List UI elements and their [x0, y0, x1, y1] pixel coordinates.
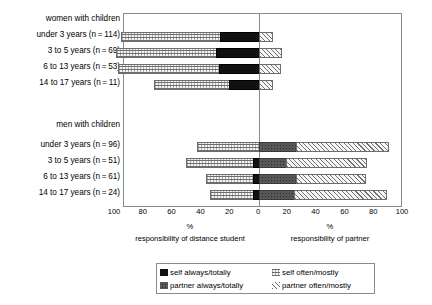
- bar-segment-self-often-mostly: [210, 190, 253, 200]
- x-axis-caption-right: responsibility of partner: [250, 234, 410, 244]
- x-axis-tick-labels: 10080604020020406080100: [123, 207, 402, 219]
- row-label-column: women with children under 3 years (n = 1…: [0, 0, 120, 210]
- x-axis-tick-8: 60: [340, 207, 348, 216]
- x-axis-tick-9: 80: [369, 207, 377, 216]
- row-label-women-3-5: 3 to 5 years (n = 69): [2, 46, 120, 55]
- legend-item-partner-often-mostly: partner often/mostly: [272, 281, 351, 290]
- legend-row-often: partner always/totally partner often/mos…: [160, 279, 371, 292]
- legend-label-self-often-mostly: self often/mostly: [282, 268, 338, 277]
- bar-segment-partner-always-totally: [259, 142, 296, 152]
- legend-label-self-always-totally: self always/totally: [170, 268, 231, 277]
- bar-segment-partner-often-mostly: [296, 174, 365, 184]
- bar-segment-partner-often-mostly: [296, 142, 388, 152]
- bar-segment-partner-often-mostly: [259, 32, 273, 42]
- bar-segment-self-often-mostly: [154, 80, 229, 90]
- x-axis-tick-7: 40: [311, 207, 319, 216]
- x-axis-tick-3: 40: [196, 207, 204, 216]
- legend-swatch-self-often-icon: [272, 269, 280, 276]
- row-label-men-3-5: 3 to 5 years (n = 51): [2, 156, 120, 165]
- bar-segment-self-often-mostly: [206, 174, 254, 184]
- bar-men-0: [197, 142, 389, 152]
- bar-segment-partner-always-totally: [259, 190, 294, 200]
- bar-men-3: [210, 190, 387, 200]
- bar-women-3: [154, 80, 274, 90]
- bar-segment-partner-often-mostly: [286, 158, 367, 168]
- row-label-men-under-3: under 3 years (n = 96): [2, 140, 120, 149]
- bar-segment-self-always-totally: [220, 32, 259, 42]
- x-axis-percent-left: %: [187, 222, 194, 231]
- group-header-men: men with children: [2, 120, 120, 129]
- legend-label-partner-always-totally: partner always/totally: [170, 281, 243, 290]
- bar-women-0: [121, 32, 274, 42]
- bar-men-2: [206, 174, 366, 184]
- row-label-men-6-13: 6 to 13 years (n = 61): [2, 172, 120, 181]
- x-axis-tick-5: 0: [256, 207, 260, 216]
- bar-segment-partner-often-mostly: [259, 80, 273, 90]
- bar-segment-partner-often-mostly: [294, 190, 388, 200]
- bar-segment-self-always-totally: [219, 64, 259, 74]
- bar-segment-self-often-mostly: [186, 158, 254, 168]
- row-label-women-under-3: under 3 years (n = 114): [2, 30, 120, 39]
- bar-segment-self-always-totally: [229, 80, 259, 90]
- bar-segment-self-often-mostly: [197, 142, 259, 152]
- x-axis-tick-0: 100: [108, 207, 121, 216]
- x-axis-tick-2: 60: [167, 207, 175, 216]
- row-label-women-14-17: 14 to 17 years (n = 11): [2, 78, 120, 87]
- group-header-women: women with children: [2, 14, 120, 23]
- bar-segment-partner-often-mostly: [259, 64, 281, 74]
- row-label-men-14-17: 14 to 17 years (n = 24): [2, 188, 120, 197]
- legend-swatch-partner-often-icon: [272, 282, 280, 289]
- bar-segment-partner-always-totally: [259, 158, 286, 168]
- x-axis-tick-6: 20: [283, 207, 291, 216]
- bar-segment-partner-always-totally: [259, 174, 296, 184]
- bar-segment-self-often-mostly: [116, 48, 215, 58]
- bar-women-2: [118, 64, 281, 74]
- legend-swatch-self-always-icon: [160, 269, 168, 276]
- bar-segment-self-often-mostly: [121, 32, 220, 42]
- x-axis-tick-10: 100: [396, 207, 409, 216]
- bar-men-1: [186, 158, 367, 168]
- bar-segment-partner-often-mostly: [259, 48, 282, 58]
- bar-segment-self-often-mostly: [118, 64, 219, 74]
- x-axis-percent-right: %: [327, 222, 334, 231]
- x-axis-tick-4: 20: [225, 207, 233, 216]
- legend-swatch-partner-always-icon: [160, 282, 168, 289]
- legend-item-self-often-mostly: self often/mostly: [272, 268, 338, 277]
- legend: self always/totally self often/mostly pa…: [156, 263, 375, 294]
- legend-row-always: self always/totally self often/mostly: [160, 266, 371, 279]
- bar-segment-self-always-totally: [216, 48, 259, 58]
- chart-root: women with children under 3 years (n = 1…: [0, 0, 432, 305]
- row-label-women-6-13: 6 to 13 years (n = 53): [2, 62, 120, 71]
- bar-women-1: [116, 48, 282, 58]
- plot-area: [123, 13, 402, 207]
- legend-label-partner-often-mostly: partner often/mostly: [282, 281, 351, 290]
- x-axis-tick-1: 80: [139, 207, 147, 216]
- legend-item-partner-always-totally: partner always/totally: [160, 281, 272, 290]
- legend-item-self-always-totally: self always/totally: [160, 268, 272, 277]
